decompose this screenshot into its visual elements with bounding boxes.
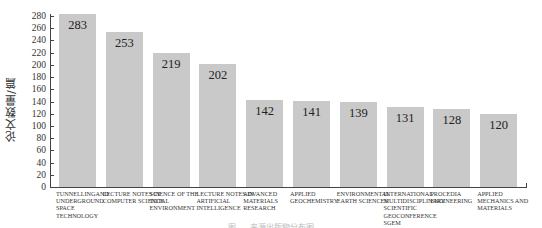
y-tick-label: 220: [18, 48, 46, 58]
y-tick-label: 40: [18, 158, 46, 168]
y-tick-label: 240: [18, 35, 46, 45]
bar-value-label: 219: [151, 57, 191, 72]
y-tick-label: 20: [18, 170, 46, 180]
y-tick-label: 0: [18, 182, 46, 192]
x-axis-end-tick: [526, 183, 527, 187]
bar-value-label: 202: [198, 68, 238, 83]
bar-value-label: 139: [338, 106, 378, 121]
bar: [153, 53, 190, 187]
y-tick-label: 200: [18, 60, 46, 70]
x-category-label: APPLIED MECHANICS AND MATERIALS: [477, 190, 539, 212]
bar-value-label: 283: [58, 18, 98, 33]
bar: [106, 32, 143, 187]
y-tick-label: 60: [18, 145, 46, 155]
bar-value-label: 141: [292, 105, 332, 120]
bar-value-label: 253: [104, 36, 144, 51]
y-tick-label: 160: [18, 84, 46, 94]
y-tick-label: 260: [18, 23, 46, 33]
y-tick-label: 280: [18, 11, 46, 21]
y-tick-label: 120: [18, 109, 46, 119]
y-tick-label: 140: [18, 97, 46, 107]
bar-value-label: 142: [245, 104, 285, 119]
y-axis-line: [50, 14, 51, 188]
bar: [59, 14, 96, 187]
y-tick-label: 100: [18, 121, 46, 131]
x-axis-line: [50, 187, 527, 188]
figure-caption: 图 … 来源出版物分布图: [0, 221, 542, 228]
y-axis-title: 论文数量/篇: [4, 60, 18, 160]
y-tick-label: 80: [18, 133, 46, 143]
bar-value-label: 128: [432, 113, 472, 128]
bar-value-label: 131: [385, 111, 425, 126]
bar-chart: 论文数量/篇 020406080100120140160180200220240…: [0, 0, 542, 228]
bar-value-label: 120: [479, 118, 519, 133]
y-tick-label: 180: [18, 72, 46, 82]
